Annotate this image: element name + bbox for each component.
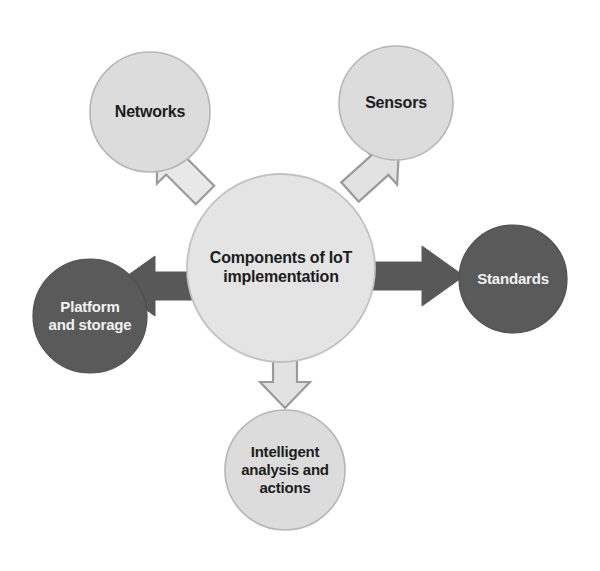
diagram-canvas: Networks Sensors Standards Platform and … bbox=[0, 0, 600, 571]
node-intelligent-analysis-and-actions-circle[interactable] bbox=[225, 410, 345, 530]
center-node-circle[interactable] bbox=[187, 174, 375, 362]
arrow-to-standards bbox=[360, 246, 464, 306]
node-sensors-circle[interactable] bbox=[339, 46, 453, 160]
diagram-svg bbox=[0, 0, 600, 571]
node-standards-circle[interactable] bbox=[459, 225, 567, 333]
node-networks-circle[interactable] bbox=[90, 52, 210, 172]
node-platform-and-storage-circle[interactable] bbox=[33, 259, 147, 373]
arrow-to-standards-shape bbox=[360, 246, 464, 306]
